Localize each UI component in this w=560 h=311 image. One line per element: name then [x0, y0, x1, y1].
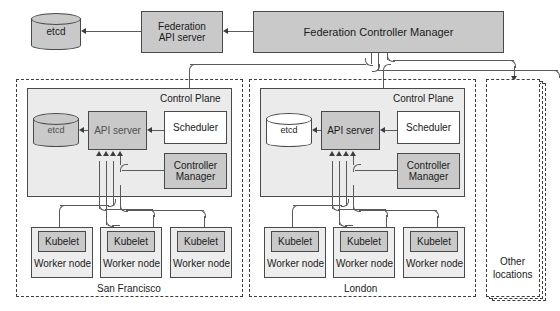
worker-node-label-2-san-francisco: Worker node: [103, 258, 160, 269]
kubelet-run-3-london: [293, 205, 342, 206]
connector-fedcm-to-fedapi: [227, 31, 253, 32]
kubelet-run-4-san-francisco: [126, 210, 204, 211]
arrowhead-etcd-london: [312, 127, 317, 133]
controller-manager-san-francisco: Controller Manager: [164, 153, 227, 189]
controller-manager-label-line1-london: Controller: [407, 160, 450, 171]
kubelet-drop-4-london: [437, 216, 438, 227]
api-server-london: API server: [321, 111, 380, 150]
federation-api-server-label-line2: API server: [159, 32, 206, 43]
federation-api-server-box: Federation API server: [141, 11, 223, 53]
control-plane-label-san-francisco: Control Plane: [160, 93, 221, 104]
cluster-name-san-francisco: San Francisco: [97, 283, 161, 294]
connector-cm-to-apiserver-san-francisco: [122, 170, 165, 171]
kubelet-run-4-london: [359, 210, 437, 211]
connector-cm-to-apiserver-london: [355, 170, 398, 171]
arrowhead-apiserver-from-scheduler-london: [380, 127, 385, 133]
scheduler-label-london: Scheduler: [406, 122, 451, 133]
fcm-elbow-london: [383, 64, 391, 72]
fcm-bus-left: [190, 64, 366, 65]
fcm-elbow-mid-b: [552, 70, 560, 78]
kubelet-label-2-london: Kubelet: [347, 236, 381, 247]
federation-controller-manager-box: Federation Controller Manager: [253, 11, 504, 53]
scheduler-label-san-francisco: Scheduler: [173, 122, 218, 133]
connector-scheduler-to-apiserver-london: [384, 130, 397, 131]
arrowhead-fedetcd: [81, 28, 86, 34]
kubelet-3-london: Kubelet: [410, 231, 458, 252]
etcd-datastore-london: etcd: [266, 113, 312, 147]
etcd-label-san-francisco: etcd: [33, 113, 79, 147]
scheduler-san-francisco: Scheduler: [164, 111, 227, 144]
kubelet-label-2-san-francisco: Kubelet: [114, 236, 148, 247]
kubelet-1-san-francisco: Kubelet: [38, 231, 86, 252]
controller-manager-label-line2-san-francisco: Manager: [176, 171, 215, 182]
cm-riser-san-francisco: [120, 156, 121, 165]
worker-node-label-3-london: Worker node: [406, 258, 463, 269]
cm-elbow-san-francisco: [120, 164, 128, 172]
kubelet-riser-2-london: [339, 161, 340, 225]
kubelet-label-3-san-francisco: Kubelet: [184, 236, 218, 247]
cluster-name-london: London: [344, 283, 377, 294]
controller-manager-london: Controller Manager: [397, 153, 460, 189]
worker-node-label-1-san-francisco: Worker node: [34, 258, 91, 269]
arrowhead-apiserver-kubelet-2-san-francisco: [103, 151, 109, 156]
arrowhead-apiserver-kubelet-2-london: [336, 151, 342, 156]
arrowhead-apiserver-from-cm-san-francisco: [117, 151, 123, 156]
arrowhead-apiserver-kubelet-1-london: [329, 151, 335, 156]
kubelet-drop-1-london: [386, 215, 387, 227]
scheduler-london: Scheduler: [397, 111, 460, 144]
api-server-label-san-francisco: API server: [94, 125, 141, 136]
controller-manager-label-line1-san-francisco: Controller: [174, 160, 217, 171]
arrowhead-apiserver-kubelet-1-san-francisco: [96, 151, 102, 156]
kubelet-run-3-san-francisco: [60, 205, 109, 206]
kubelet-run-2-san-francisco: [112, 225, 120, 226]
arrowhead-apiserver-kubelet-3-london: [343, 151, 349, 156]
kubelet-label-1-london: Kubelet: [278, 236, 312, 247]
kubelet-label-3-london: Kubelet: [417, 236, 451, 247]
kubelet-2-san-francisco: Kubelet: [107, 231, 155, 252]
worker-node-label-1-london: Worker node: [267, 258, 324, 269]
kubelet-riser-1-san-francisco: [99, 161, 100, 209]
etcd-label-london: etcd: [266, 113, 312, 147]
worker-node-label-2-london: Worker node: [336, 258, 393, 269]
federation-controller-manager-label: Federation Controller Manager: [304, 26, 454, 38]
worker-node-label-3-san-francisco: Worker node: [173, 258, 230, 269]
controller-manager-label-line2-london: Manager: [409, 171, 448, 182]
arrowhead-fedapi: [223, 28, 228, 34]
kubelet-label-1-san-francisco: Kubelet: [45, 236, 79, 247]
federation-api-server-label-line1: Federation: [158, 21, 206, 32]
api-server-san-francisco: API server: [88, 111, 147, 150]
kubelet-drop-4-san-francisco: [204, 216, 205, 227]
other-locations-label-line1: Other: [500, 256, 525, 267]
etcd-datastore-san-francisco: etcd: [33, 113, 79, 147]
fcm-bus-other-locations: [393, 60, 514, 61]
arrowhead-apiserver-from-cm-london: [350, 151, 356, 156]
federation-etcd-datastore: etcd: [31, 13, 81, 50]
arrowhead-etcd-san-francisco: [79, 127, 84, 133]
fcm-bus-mid: [378, 70, 558, 71]
cm-riser-london: [353, 156, 354, 165]
cm-elbow-london: [353, 164, 361, 172]
kubelet-drop-3-san-francisco: [59, 211, 60, 227]
api-server-label-london: API server: [327, 125, 374, 136]
arrowhead-apiserver-kubelet-3-san-francisco: [110, 151, 116, 156]
kubelet-drop-3-london: [292, 211, 293, 227]
fcm-elbow-left-b: [189, 64, 197, 72]
kubelet-run-2-london: [345, 225, 353, 226]
connector-fedapi-to-fedetcd: [85, 31, 141, 32]
kubelet-drop-1-san-francisco: [153, 215, 154, 227]
kubelet-2-london: Kubelet: [340, 231, 388, 252]
kubelet-elbow-3b-san-francisco: [59, 205, 67, 213]
arrowhead-apiserver-from-scheduler-san-francisco: [147, 127, 152, 133]
kubelet-3-san-francisco: Kubelet: [177, 231, 225, 252]
kubelet-riser-2-san-francisco: [106, 161, 107, 225]
other-locations-label-line2: locations: [493, 269, 532, 280]
kubelet-elbow-3b-london: [292, 205, 300, 213]
control-plane-label-london: Control Plane: [393, 93, 454, 104]
kubelet-riser-1-london: [332, 161, 333, 209]
connector-scheduler-to-apiserver-san-francisco: [151, 130, 164, 131]
federation-etcd-label: etcd: [31, 13, 81, 50]
kubelet-1-london: Kubelet: [271, 231, 319, 252]
